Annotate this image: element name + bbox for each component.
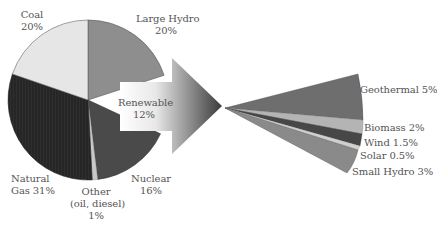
label-coal-name: Coal: [14, 9, 50, 21]
label-nuclear-pct: 16%: [128, 185, 174, 197]
label-natural-gas-line2: Gas 31%: [11, 185, 61, 197]
label-natural-gas: Natural Gas 31%: [11, 173, 61, 197]
label-coal: Coal 20%: [14, 9, 50, 33]
label-large-hydro: Large Hydro 20%: [136, 13, 196, 37]
label-coal-pct: 20%: [14, 21, 50, 33]
label-natural-gas-line1: Natural: [11, 173, 61, 185]
label-other-sub: (oil, diesel): [70, 198, 122, 210]
label-large-hydro-name: Large Hydro: [136, 13, 196, 25]
label-other-pct: 1%: [70, 210, 122, 222]
label-renewable-name: Renewable: [118, 97, 170, 109]
label-biomass: Biomass 2%: [364, 122, 424, 134]
label-geothermal: Geothermal 5%: [360, 84, 437, 96]
label-other-name: Other: [70, 186, 122, 198]
label-large-hydro-pct: 20%: [136, 25, 196, 37]
label-other: Other (oil, diesel) 1%: [70, 186, 122, 222]
label-nuclear-name: Nuclear: [128, 173, 174, 185]
label-renewable-pct: 12%: [118, 109, 170, 121]
label-solar: Solar 0.5%: [360, 150, 414, 162]
label-small-hydro: Small Hydro 3%: [352, 166, 433, 178]
label-wind: Wind 1.5%: [364, 137, 418, 149]
renewable-fan: [225, 74, 363, 173]
label-nuclear: Nuclear 16%: [128, 173, 174, 197]
label-renewable: Renewable 12%: [118, 97, 170, 121]
